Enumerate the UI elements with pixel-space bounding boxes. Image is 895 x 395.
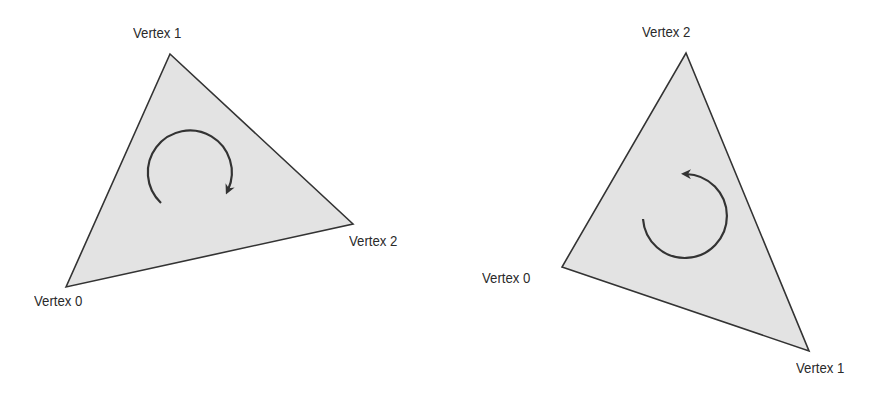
- label-right-vertex-0: Vertex 0: [482, 269, 530, 286]
- label-right-vertex-1: Vertex 1: [796, 359, 844, 376]
- label-right-vertex-2: Vertex 2: [642, 23, 690, 40]
- label-left-vertex-0: Vertex 0: [34, 292, 82, 309]
- diagram-canvas: [0, 0, 895, 395]
- label-left-vertex-1: Vertex 1: [133, 24, 181, 41]
- triangle-counter-clockwise: [562, 53, 809, 351]
- triangle-clockwise: [66, 54, 353, 287]
- label-left-vertex-2: Vertex 2: [349, 232, 397, 249]
